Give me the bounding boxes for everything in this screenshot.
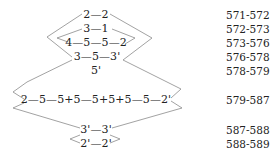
- sequence-row-7: 3'—3': [80, 124, 112, 136]
- line-range-4: 576-578: [226, 51, 270, 63]
- sequence-row-6: 2—5—5+5—5+5+5—5—2': [21, 94, 171, 106]
- line-range-5: 578-579: [226, 65, 270, 77]
- sequence-row-8: 2'—2': [80, 138, 112, 150]
- line-range-2: 572-573: [226, 23, 270, 35]
- line-range-3: 573-576: [226, 37, 270, 49]
- big-left-bracket-bottom: [13, 103, 80, 128]
- sequence-row-2: 3—1: [83, 23, 108, 35]
- sequence-row-5: 5': [91, 65, 101, 77]
- small-lower-left-bracket: [70, 135, 80, 143]
- sequence-row-4: 3—5—3': [74, 51, 121, 63]
- sequence-row-1: 2—2: [83, 9, 108, 21]
- sequence-row-3: 4—5—5—2: [65, 37, 127, 49]
- line-range-7: 587-588: [226, 124, 270, 136]
- line-range-1: 571-572: [226, 9, 270, 21]
- chiastic-structure-diagram: 2—2 3—1 4—5—5—2 3—5—3' 5' 2—5—5+5—5+5+5—…: [0, 0, 275, 157]
- line-range-6: 579-587: [226, 94, 270, 106]
- line-range-8: 588-589: [226, 138, 270, 150]
